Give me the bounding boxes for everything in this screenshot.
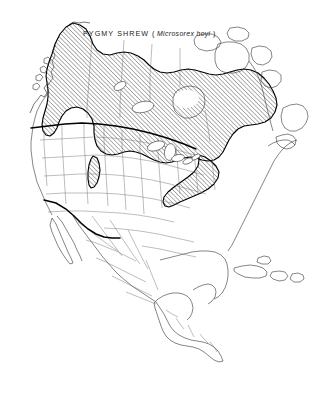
species-range-hatch xyxy=(0,0,324,397)
title-open-paren: ( xyxy=(152,29,155,38)
range-map-figure: PYGMY SHREW ( Microsorex hoyi ) xyxy=(0,0,324,397)
north-america-range-map: PYGMY SHREW ( Microsorex hoyi ) xyxy=(0,0,324,397)
title-common-name: PYGMY SHREW xyxy=(83,29,149,38)
title-close-paren: ) xyxy=(213,29,216,38)
title-scientific-name: Microsorex hoyi xyxy=(157,30,211,38)
